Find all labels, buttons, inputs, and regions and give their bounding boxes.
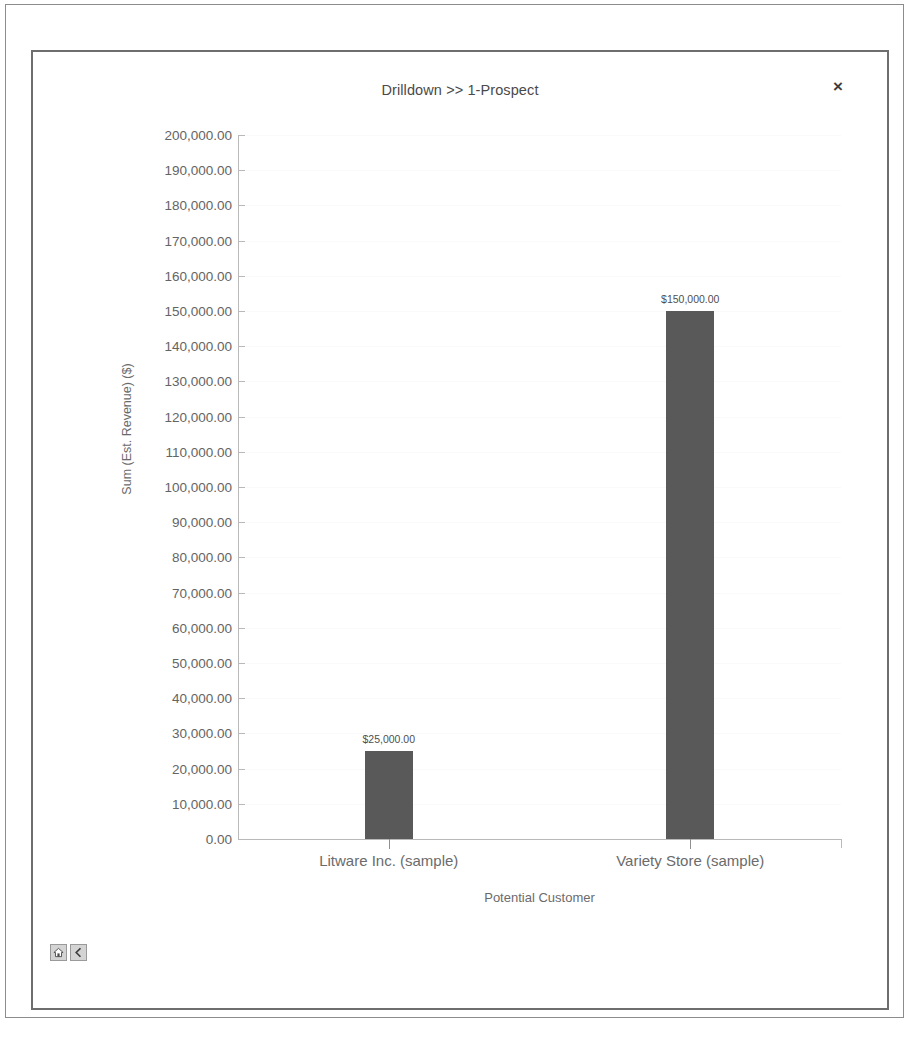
x-axis-end-tick <box>841 839 842 848</box>
gridline <box>238 733 841 734</box>
y-axis-tick-mark <box>238 733 245 734</box>
gridline <box>238 593 841 594</box>
x-axis-tick-mark <box>389 839 390 849</box>
y-axis-tick-mark <box>238 557 245 558</box>
y-axis-tick-label: 10,000.00 <box>112 796 232 811</box>
y-axis-tick-mark <box>238 628 245 629</box>
plot-area: $25,000.00$150,000.00 <box>238 135 841 839</box>
gridline <box>238 381 841 382</box>
y-axis-tick-mark <box>238 311 245 312</box>
gridline <box>238 452 841 453</box>
y-axis-tick-mark <box>238 241 245 242</box>
back-chevron-icon <box>73 947 84 958</box>
y-axis-tick-mark <box>238 170 245 171</box>
y-axis-tick-label: 180,000.00 <box>112 198 232 213</box>
y-axis-tick-label: 0.00 <box>112 832 232 847</box>
y-axis-tick-mark <box>238 593 245 594</box>
gridline <box>238 346 841 347</box>
x-axis-category-label: Litware Inc. (sample) <box>319 852 458 869</box>
navigation-buttons <box>50 944 87 961</box>
drilldown-chart-panel: Drilldown >> 1-Prospect × 200,000.00190,… <box>31 50 889 1010</box>
bar-value-label: $25,000.00 <box>362 733 415 745</box>
y-axis-tick-label: 200,000.00 <box>112 128 232 143</box>
home-button[interactable] <box>50 944 67 961</box>
x-axis-line <box>238 839 842 840</box>
y-axis-tick-mark <box>238 663 245 664</box>
y-axis-tick-mark <box>238 346 245 347</box>
gridline <box>238 205 841 206</box>
y-axis-tick-label: 70,000.00 <box>112 585 232 600</box>
y-axis-tick-mark <box>238 804 245 805</box>
gridline <box>238 698 841 699</box>
y-axis-tick-label: 40,000.00 <box>112 691 232 706</box>
y-axis-tick-mark <box>238 417 245 418</box>
y-axis-tick-mark <box>238 452 245 453</box>
back-button[interactable] <box>70 944 87 961</box>
y-axis-tick-mark <box>238 276 245 277</box>
close-icon[interactable]: × <box>825 74 851 100</box>
y-axis-tick-mark <box>238 522 245 523</box>
gridline <box>238 417 841 418</box>
gridline <box>238 628 841 629</box>
gridline <box>238 804 841 805</box>
page-title: Drilldown >> 1-Prospect <box>33 82 887 98</box>
bar-value-label: $150,000.00 <box>661 293 719 305</box>
y-axis-tick-label: 160,000.00 <box>112 268 232 283</box>
y-axis-tick-label: 30,000.00 <box>112 726 232 741</box>
gridline <box>238 487 841 488</box>
window-outer-frame: Drilldown >> 1-Prospect × 200,000.00190,… <box>5 4 904 1018</box>
y-axis-tick-mark <box>238 698 245 699</box>
y-axis-title: Sum (Est. Revenue) ($) <box>120 329 134 529</box>
bar[interactable] <box>365 751 413 839</box>
gridline <box>238 557 841 558</box>
gridline <box>238 522 841 523</box>
y-axis-tick-label: 20,000.00 <box>112 761 232 776</box>
y-axis-tick-label: 50,000.00 <box>112 656 232 671</box>
y-axis-tick-label: 190,000.00 <box>112 163 232 178</box>
x-axis-title: Potential Customer <box>238 890 841 905</box>
home-icon <box>53 947 64 958</box>
gridline <box>238 170 841 171</box>
y-axis-tick-label: 170,000.00 <box>112 233 232 248</box>
gridline <box>238 135 841 136</box>
y-axis-tick-label: 60,000.00 <box>112 620 232 635</box>
y-axis-tick-mark <box>238 487 245 488</box>
y-axis-tick-mark <box>238 381 245 382</box>
bar[interactable] <box>666 311 714 839</box>
gridline <box>238 241 841 242</box>
x-axis-tick-mark <box>690 839 691 849</box>
y-axis-tick-mark <box>238 205 245 206</box>
y-axis-tick-mark <box>238 135 245 136</box>
gridline <box>238 769 841 770</box>
y-axis-tick-label: 80,000.00 <box>112 550 232 565</box>
gridline <box>238 276 841 277</box>
x-axis-category-label: Variety Store (sample) <box>616 852 764 869</box>
gridline <box>238 311 841 312</box>
gridline <box>238 663 841 664</box>
y-axis-tick-label: 150,000.00 <box>112 304 232 319</box>
y-axis-tick-mark <box>238 769 245 770</box>
y-axis-tick-mark <box>238 839 245 840</box>
